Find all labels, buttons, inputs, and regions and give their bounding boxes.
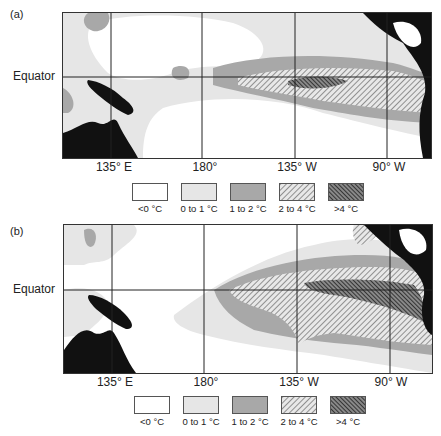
legend-label: 2 to 4 °C (278, 203, 315, 214)
legend-label: <0 °C (138, 203, 162, 214)
panel-a-tick-135w: 135° W (277, 160, 316, 174)
legend-swatch (330, 396, 366, 414)
legend-swatch (232, 396, 268, 414)
panel-a-tick-90w: 90° W (373, 160, 406, 174)
legend-swatch (281, 396, 317, 414)
legend-swatch (183, 396, 219, 414)
panel-a-legend: <0 °C 0 to 1 °C 1 to 2 °C 2 to 4 °C >4 °… (132, 183, 364, 214)
legend-item-0-1: 0 to 1 °C (181, 183, 217, 214)
legend-label: >4 °C (336, 416, 360, 427)
legend-item-1-2: 1 to 2 °C (230, 183, 266, 214)
panel-a-equator-label: Equator (13, 69, 55, 83)
panel-b-legend: <0 °C 0 to 1 °C 1 to 2 °C 2 to 4 °C >4 °… (134, 396, 366, 427)
legend-item-below-0: <0 °C (134, 396, 170, 427)
legend-swatch (328, 183, 364, 201)
panel-a-tick-180: 180° (193, 160, 218, 174)
panel-b-tick-90w: 90° W (375, 375, 408, 389)
panel-b-map (63, 224, 433, 374)
legend-item-1-2: 1 to 2 °C (232, 396, 268, 427)
legend-item-above-4: >4 °C (328, 183, 364, 214)
legend-label: 1 to 2 °C (229, 203, 266, 214)
panel-a-label: (a) (10, 8, 23, 20)
panel-b-tick-180: 180° (194, 375, 219, 389)
legend-item-2-4: 2 to 4 °C (279, 183, 315, 214)
legend-swatch (230, 183, 266, 201)
legend-swatch (279, 183, 315, 201)
panel-a-tick-135e: 135° E (96, 160, 132, 174)
legend-label: 2 to 4 °C (280, 416, 317, 427)
legend-item-0-1: 0 to 1 °C (183, 396, 219, 427)
panel-b-tick-135e: 135° E (97, 375, 133, 389)
legend-item-2-4: 2 to 4 °C (281, 396, 317, 427)
legend-swatch (181, 183, 217, 201)
legend-label: >4 °C (334, 203, 358, 214)
panel-b-tick-135w: 135° W (279, 375, 318, 389)
panel-a-map (62, 12, 432, 159)
legend-item-below-0: <0 °C (132, 183, 168, 214)
legend-swatch (132, 183, 168, 201)
panel-b-equator-label: Equator (13, 282, 55, 296)
legend-label: <0 °C (140, 416, 164, 427)
legend-swatch (134, 396, 170, 414)
legend-label: 0 to 1 °C (182, 416, 219, 427)
legend-label: 1 to 2 °C (231, 416, 268, 427)
legend-label: 0 to 1 °C (180, 203, 217, 214)
panel-b-label: (b) (10, 225, 23, 237)
legend-item-above-4: >4 °C (330, 396, 366, 427)
